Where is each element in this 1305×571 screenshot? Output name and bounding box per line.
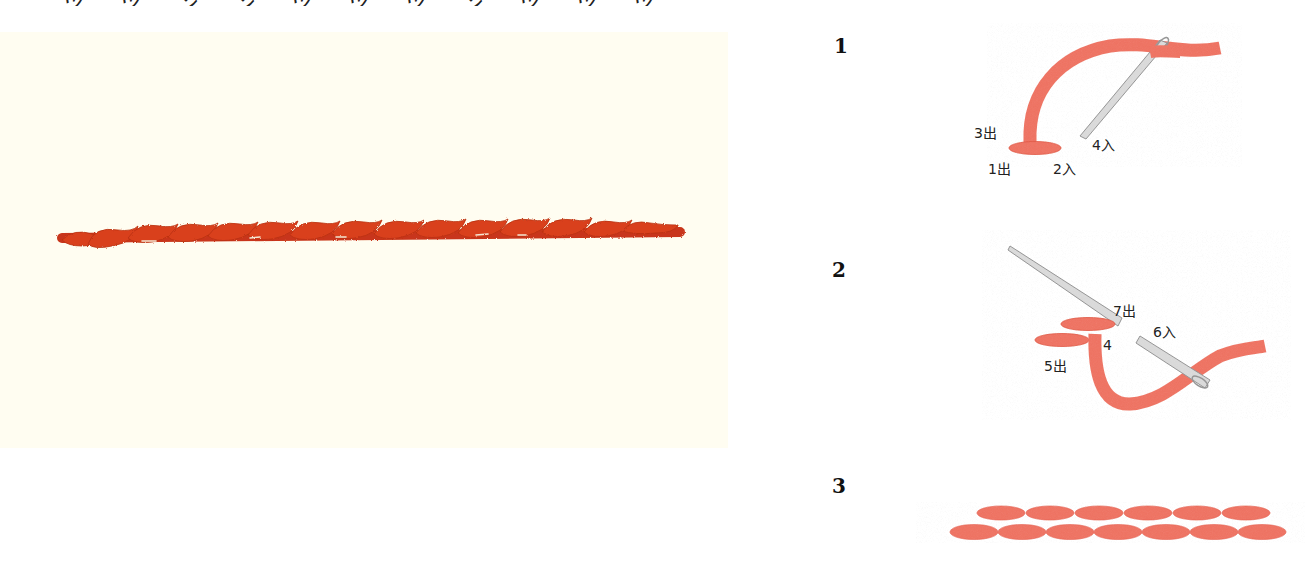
label-6-in: 6入 [1153, 321, 1176, 341]
cropped-heading-text: ツ ツ ン ン ツ ツ ツ ン ツ ツ ツ [60, 0, 666, 6]
label-4: 4 [1103, 337, 1112, 353]
label-5-out: 5出 [1044, 355, 1067, 375]
label-1-out: 1出 [988, 158, 1011, 178]
stitch-sample-svg [0, 32, 728, 448]
step-2-diagram [1008, 246, 1265, 404]
label-3-out: 3出 [974, 122, 997, 142]
step-number-3: 3 [832, 474, 846, 498]
label-4-in: 4入 [1092, 134, 1115, 154]
stitch-oval [1035, 334, 1089, 347]
stitch-oval [1009, 142, 1061, 155]
step-3-diagram [950, 506, 1286, 540]
thread-icon [1095, 334, 1265, 404]
step-number-2: 2 [832, 258, 846, 282]
label-2-in: 2入 [1053, 158, 1076, 178]
label-7-out: 7出 [1113, 300, 1136, 320]
stitch-oval [1061, 318, 1115, 331]
stitch-sample-photo [0, 32, 728, 448]
twisted-stitch-line [62, 218, 680, 248]
step-number-1: 1 [834, 34, 848, 58]
needle-icon [1136, 336, 1210, 390]
thread-icon [1030, 45, 1220, 142]
needle-icon [1008, 246, 1122, 326]
needle-icon [1080, 36, 1171, 139]
